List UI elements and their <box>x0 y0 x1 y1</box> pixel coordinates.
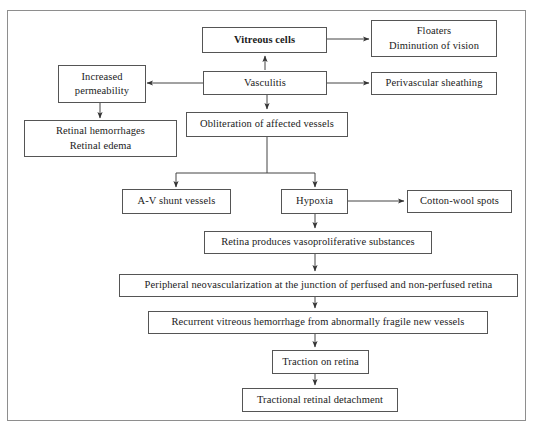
node-cotton-wool-spots[interactable]: Cotton-wool spots <box>407 190 512 213</box>
node-perivascular-sheathing-label: Perivascular sheathing <box>376 76 492 90</box>
node-floaters-line2: Diminution of vision <box>376 39 492 53</box>
node-increased-permeability-line1: Increased <box>63 70 141 84</box>
node-retina-produces-label: Retina produces vasoproliferative substa… <box>209 235 427 249</box>
node-retinal-hemorrhages-line2: Retinal edema <box>29 139 172 153</box>
node-increased-permeability-line2: permeability <box>63 84 141 98</box>
node-vasculitis-label: Vasculitis <box>208 76 322 90</box>
node-retinal-hemorrhages-line1: Retinal hemorrhages <box>29 124 172 138</box>
node-hypoxia-label: Hypoxia <box>286 194 343 208</box>
node-vitreous-cells[interactable]: Vitreous cells <box>202 27 327 53</box>
node-tractional-retinal-detachment[interactable]: Tractional retinal detachment <box>242 388 398 412</box>
node-floaters[interactable]: Floaters Diminution of vision <box>371 20 497 57</box>
node-peripheral-neovascularization-label: Peripheral neovascularization at the jun… <box>124 278 513 292</box>
node-obliteration[interactable]: Obliteration of affected vessels <box>186 112 348 137</box>
node-tractional-retinal-detachment-label: Tractional retinal detachment <box>247 393 393 407</box>
node-hypoxia[interactable]: Hypoxia <box>281 189 348 214</box>
node-floaters-line1: Floaters <box>376 24 492 38</box>
node-increased-permeability[interactable]: Increased permeability <box>58 65 146 103</box>
node-traction-on-retina[interactable]: Traction on retina <box>272 350 369 374</box>
node-av-shunt-vessels[interactable]: A-V shunt vessels <box>122 189 231 214</box>
node-vitreous-cells-label: Vitreous cells <box>207 33 322 47</box>
node-retinal-hemorrhages[interactable]: Retinal hemorrhages Retinal edema <box>24 120 177 157</box>
node-recurrent-vitreous-hemorrhage[interactable]: Recurrent vitreous hemorrhage from abnor… <box>148 311 488 334</box>
node-peripheral-neovascularization[interactable]: Peripheral neovascularization at the jun… <box>119 274 518 297</box>
node-vasculitis[interactable]: Vasculitis <box>203 71 327 95</box>
node-perivascular-sheathing[interactable]: Perivascular sheathing <box>371 72 497 95</box>
node-obliteration-label: Obliteration of affected vessels <box>191 117 343 131</box>
node-traction-on-retina-label: Traction on retina <box>277 355 364 369</box>
node-retina-produces[interactable]: Retina produces vasoproliferative substa… <box>204 231 432 254</box>
flowchart-canvas: Vitreous cells Floaters Diminution of vi… <box>0 0 539 429</box>
node-cotton-wool-spots-label: Cotton-wool spots <box>412 194 507 208</box>
node-av-shunt-vessels-label: A-V shunt vessels <box>127 194 226 208</box>
node-recurrent-vitreous-hemorrhage-label: Recurrent vitreous hemorrhage from abnor… <box>153 315 483 329</box>
